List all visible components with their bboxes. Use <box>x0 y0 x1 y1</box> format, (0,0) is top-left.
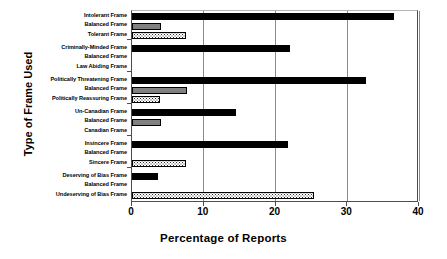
bar <box>132 192 314 199</box>
bar-category-label: Tolerant Frame <box>0 31 127 38</box>
bar <box>132 87 187 94</box>
bar-category-label: Intolerant Frame <box>0 12 127 19</box>
bar-category-label: Balanced Frame <box>0 53 127 60</box>
y-axis-group-tick <box>127 39 131 40</box>
category-label-column: Intolerant FrameBalanced FrameTolerant F… <box>30 10 129 202</box>
y-axis-group-tick <box>127 167 131 168</box>
gridline <box>419 11 420 201</box>
bar-category-label: Balanced Frame <box>0 21 127 28</box>
bar <box>132 96 160 103</box>
bar-category-label: Insincere Frame <box>0 140 127 147</box>
bar <box>132 109 236 116</box>
bar-category-label: Undeserving of Bias Frame <box>0 191 127 198</box>
y-axis-group-tick <box>127 71 131 72</box>
x-axis-tick-label: 0 <box>111 206 151 217</box>
bar <box>132 119 161 126</box>
bar-category-label: Sincere Frame <box>0 159 127 166</box>
bar-category-label: Law Abiding Frame <box>0 63 127 70</box>
y-axis-group-tick <box>127 135 131 136</box>
plot-area <box>131 10 418 202</box>
bar <box>132 32 186 39</box>
bar-category-label: Politically Threatening Frame <box>0 76 127 83</box>
bar <box>132 23 161 30</box>
gridline <box>275 11 276 201</box>
bar-category-label: Un-Canadian Frame <box>0 108 127 115</box>
gridline <box>347 11 348 201</box>
bar-category-label: Balanced Frame <box>0 85 127 92</box>
bar-category-label: Balanced Frame <box>0 149 127 156</box>
bar-chart: Type of Frame Used Intolerant FrameBalan… <box>0 0 447 259</box>
bar <box>132 77 366 84</box>
gridline <box>203 11 204 201</box>
bar-category-label: Balanced Frame <box>0 181 127 188</box>
bar <box>132 13 394 20</box>
x-axis-tick-label: 30 <box>326 206 366 217</box>
x-axis-tick-label: 40 <box>398 206 438 217</box>
x-axis-title: Percentage of Reports <box>0 232 447 244</box>
bar-category-label: Criminally-Minded Frame <box>0 44 127 51</box>
bar-category-label: Politically Reassuring Frame <box>0 95 127 102</box>
bar <box>132 173 158 180</box>
bar-category-label: Deserving of Bias Frame <box>0 172 127 179</box>
bar-category-label: Canadian Frame <box>0 127 127 134</box>
bar <box>132 45 290 52</box>
x-axis-tick-label: 10 <box>183 206 223 217</box>
y-axis-group-tick <box>127 103 131 104</box>
x-axis-tick-label: 20 <box>255 206 295 217</box>
bar <box>132 160 186 167</box>
bar-category-label: Balanced Frame <box>0 117 127 124</box>
bar <box>132 141 288 148</box>
